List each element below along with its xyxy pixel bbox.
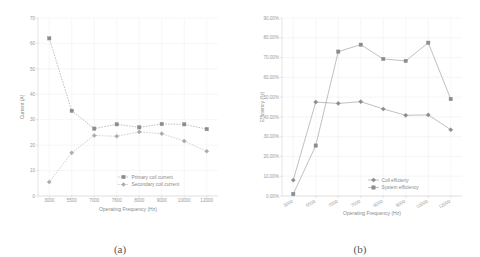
data-point-marker [93,127,96,130]
data-point-marker [291,178,295,182]
data-point-marker [336,101,340,105]
x-axis-tick-label: 8000 [372,199,384,209]
data-point-marker [138,126,141,129]
y-axis-title: Current (A) [19,94,25,119]
x-axis-tick-label: 12000 [438,199,452,210]
y-axis-tick-label: 40 [30,92,36,97]
data-point-marker [160,132,164,136]
series-line [49,38,207,129]
figure-container: 0102030405060703000550070007600800090001… [0,0,480,257]
panel-a-caption: (a) [0,243,240,255]
x-axis-tick-label: 9000 [395,199,407,209]
y-axis-tick-label: 60 [30,41,36,46]
y-axis-tick-label: 70.00% [263,55,279,60]
data-point-marker [427,41,430,44]
data-point-marker [381,107,385,111]
x-axis-tick-label: 7000 [89,198,100,203]
data-point-marker [337,50,340,53]
y-axis-tick-label: 0 [32,194,35,199]
y-axis-tick-label: 30.00% [263,134,279,139]
y-axis-tick-label: 20 [30,143,36,148]
y-axis-tick-label: 50.00% [263,95,279,100]
data-point-marker [121,182,125,186]
chart-b-canvas: 0.00%10.00%20.00%30.00%40.00%50.00%60.00… [240,0,480,232]
x-axis-tick-label: 5500 [305,199,317,209]
data-point-marker [115,123,118,126]
y-axis-tick-label: 50 [30,67,36,72]
x-axis-tick-label: 5500 [67,198,78,203]
data-point-marker [371,178,375,182]
y-axis-tick-label: 20.00% [263,154,279,159]
x-axis-tick-label: 10000 [415,199,429,210]
panel-b: 0.00%10.00%20.00%30.00%40.00%50.00%60.00… [240,0,480,257]
series-line [293,43,451,194]
data-point-marker [449,97,452,100]
data-point-marker [404,59,407,62]
legend-label: System efficiency [382,185,420,190]
legend-label: Primary coil current [132,175,174,180]
y-axis-tick-label: 80.00% [263,35,279,40]
x-axis-tick-label: 3000 [44,198,55,203]
x-axis-title: Operating Frequency (Hz) [343,210,401,216]
data-point-marker [205,127,208,130]
data-point-marker [359,100,363,104]
data-point-marker [183,123,186,126]
data-point-marker [122,175,125,178]
data-point-marker [314,144,317,147]
data-point-marker [92,133,96,137]
x-axis-tick-label: 7600 [350,199,362,209]
x-axis-tick-label: 7600 [112,198,123,203]
chart-a: 0102030405060703000550070007600800090001… [0,0,240,232]
x-axis-tick-label: 3000 [282,199,294,209]
x-axis-tick-label: 7000 [327,199,339,209]
data-point-marker [182,139,186,143]
y-axis-tick-label: 60.00% [263,75,279,80]
x-axis-tick-label: 12000 [200,198,213,203]
y-axis-tick-label: 70 [30,16,36,21]
data-point-marker [314,100,318,104]
panel-b-caption: (b) [240,243,480,255]
data-point-marker [48,37,51,40]
legend-label: Secondary coil current [132,182,180,187]
y-axis-title: Efficiency (%) [259,91,265,122]
y-axis-tick-label: 10 [30,168,36,173]
x-axis-tick-label: 10000 [178,198,191,203]
data-point-marker [426,113,430,117]
y-axis-tick-label: 10.00% [263,174,279,179]
y-axis-tick-label: 30 [30,117,36,122]
chart-b: 0.00%10.00%20.00%30.00%40.00%50.00%60.00… [240,0,480,232]
x-axis-tick-label: 8000 [134,198,145,203]
data-point-marker [70,109,73,112]
y-axis-tick-label: 0.00% [266,194,279,199]
data-point-marker [449,128,453,132]
data-point-marker [160,122,163,125]
x-axis-title: Operating Frequency (Hz) [99,206,157,212]
data-point-marker [382,57,385,60]
legend-label: Coil efficieny [382,178,410,183]
data-point-marker [359,43,362,46]
y-axis-tick-label: 40.00% [263,115,279,120]
panel-a: 0102030405060703000550070007600800090001… [0,0,240,257]
series-line [49,132,207,182]
data-point-marker [115,134,119,138]
y-axis-tick-label: 90.00% [263,16,279,21]
data-point-marker [372,186,375,189]
chart-a-canvas: 0102030405060703000550070007600800090001… [0,0,240,232]
data-point-marker [205,149,209,153]
x-axis-tick-label: 9000 [157,198,168,203]
data-point-marker [47,180,51,184]
data-point-marker [292,192,295,195]
data-point-marker [137,130,141,134]
